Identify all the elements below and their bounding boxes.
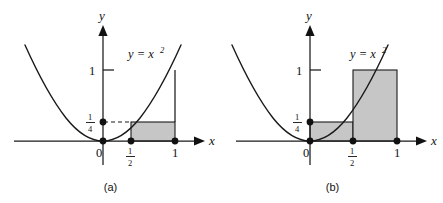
point-one	[394, 138, 401, 145]
y-tick-label-1: 1	[296, 64, 302, 78]
y-axis-arrowhead	[305, 25, 314, 36]
panel-b: y x 1 0 1 1 4 1 2 y = x 2 (	[222, 0, 443, 203]
point-half	[128, 138, 135, 145]
x-tick-label-0: 0	[303, 146, 309, 160]
y-tick-label-1: 1	[89, 64, 95, 78]
panel-a-caption: (a)	[0, 181, 221, 193]
x-tick-label-1: 1	[172, 146, 178, 160]
y-axis-label: y	[97, 8, 105, 23]
x-tick-label-half: 1 2	[126, 146, 135, 168]
svg-text:4: 4	[295, 124, 300, 134]
x-axis-arrowhead	[416, 136, 427, 145]
point-quarter-on-y	[307, 119, 314, 126]
svg-text:y = x: y = x	[126, 47, 154, 61]
rectangle-upper-sum-first	[310, 122, 353, 141]
svg-text:2: 2	[128, 158, 132, 168]
svg-text:1: 1	[350, 146, 354, 156]
svg-text:1: 1	[295, 112, 299, 122]
svg-text:4: 4	[88, 124, 93, 134]
x-tick-label-1: 1	[394, 146, 400, 160]
point-origin	[307, 138, 314, 145]
y-tick-label-quarter: 1 4	[86, 112, 95, 134]
point-quarter-on-y	[100, 119, 107, 126]
rectangle-lower-sum	[131, 122, 175, 141]
x-axis-label: x	[208, 133, 215, 148]
plot-b: y x 1 0 1 1 4 1 2 y = x 2	[222, 0, 443, 180]
curve-equation-label: y = x 2	[126, 45, 165, 61]
panel-b-caption: (b)	[222, 181, 443, 193]
svg-text:1: 1	[88, 112, 92, 122]
y-axis-arrowhead	[98, 25, 107, 36]
svg-text:2: 2	[160, 45, 165, 55]
figure-riemann-sums: y x 1 0 1 1 4 1 2 y = x 2 (	[0, 0, 443, 203]
x-tick-label-0: 0	[96, 146, 102, 160]
plot-a: y x 1 0 1 1 4 1 2 y = x 2	[0, 0, 221, 180]
point-one	[172, 138, 179, 145]
svg-text:2: 2	[350, 158, 354, 168]
point-origin	[100, 138, 107, 145]
panel-a: y x 1 0 1 1 4 1 2 y = x 2 (	[0, 0, 221, 203]
rectangle-upper-sum-second	[353, 70, 397, 141]
svg-text:1: 1	[128, 146, 132, 156]
point-half	[350, 138, 357, 145]
y-axis-label: y	[304, 8, 312, 23]
y-tick-label-quarter: 1 4	[293, 112, 302, 134]
x-axis-arrowhead	[194, 136, 205, 145]
x-axis-label: x	[430, 133, 437, 148]
svg-text:y = x: y = x	[348, 47, 376, 61]
x-tick-label-half: 1 2	[348, 146, 357, 168]
